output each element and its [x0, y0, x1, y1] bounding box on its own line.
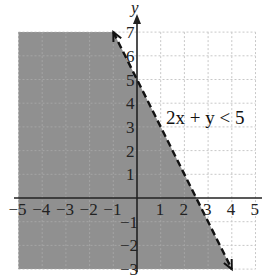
svg-text:4: 4 [126, 94, 135, 113]
svg-text:−3: −3 [120, 260, 138, 278]
svg-text:−2: −2 [120, 236, 138, 255]
svg-text:4: 4 [227, 200, 236, 219]
inequality-graph: −5−4−3−2−112345 7654321−1−2−3 y 2x + y <… [0, 0, 264, 278]
svg-text:−3: −3 [56, 200, 74, 219]
inequality-label: 2x + y < 5 [166, 107, 244, 128]
svg-text:6: 6 [126, 47, 135, 66]
svg-text:5: 5 [251, 200, 260, 219]
svg-text:2: 2 [126, 142, 135, 161]
svg-text:1: 1 [126, 165, 135, 184]
svg-text:−1: −1 [120, 213, 138, 232]
svg-text:−5: −5 [9, 200, 27, 219]
svg-text:2: 2 [179, 200, 188, 219]
svg-text:5: 5 [126, 71, 135, 90]
svg-text:−2: −2 [80, 200, 98, 219]
y-axis-label: y [129, 0, 139, 17]
svg-text:−4: −4 [32, 200, 51, 219]
svg-text:3: 3 [126, 118, 135, 137]
svg-text:7: 7 [126, 23, 135, 42]
svg-text:−1: −1 [103, 200, 121, 219]
svg-text:1: 1 [156, 200, 165, 219]
svg-text:3: 3 [203, 200, 212, 219]
